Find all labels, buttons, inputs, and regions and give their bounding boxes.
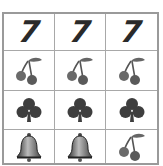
slot-reel-grid: 777 bbox=[2, 12, 159, 165]
reel-cell bbox=[55, 51, 106, 91]
reel-cell: 7 bbox=[4, 14, 55, 51]
reel-cell: 7 bbox=[106, 14, 157, 51]
reel-cell: 7 bbox=[55, 14, 106, 51]
reel-cell bbox=[4, 130, 55, 163]
reel-cell bbox=[4, 91, 55, 130]
cherry-icon bbox=[117, 57, 147, 85]
reel-cell bbox=[55, 91, 106, 130]
club-icon bbox=[15, 96, 43, 124]
reel-cell bbox=[106, 91, 157, 130]
cherry-icon bbox=[65, 57, 95, 85]
cherry-icon bbox=[14, 57, 44, 85]
bell-icon bbox=[15, 132, 43, 162]
reel-cell bbox=[106, 51, 157, 91]
seven-symbol: 7 bbox=[119, 17, 143, 47]
club-icon bbox=[118, 96, 146, 124]
bell-icon bbox=[66, 132, 94, 162]
cherry-icon bbox=[117, 133, 147, 161]
seven-symbol: 7 bbox=[68, 17, 92, 47]
reel-cell bbox=[4, 51, 55, 91]
reel-cell bbox=[106, 130, 157, 163]
seven-symbol: 7 bbox=[17, 17, 41, 47]
reel-cell bbox=[55, 130, 106, 163]
club-icon bbox=[66, 96, 94, 124]
